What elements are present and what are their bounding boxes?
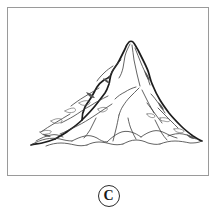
valley-line-right-lower bbox=[155, 120, 167, 140]
foothill-line-center-3 bbox=[107, 131, 141, 142]
caption-badge-circle: C bbox=[98, 185, 120, 207]
rock-facet-right-2 bbox=[174, 129, 184, 133]
valley-line-center bbox=[113, 115, 119, 141]
crevice-center-left bbox=[115, 87, 136, 99]
caption-letter: C bbox=[103, 188, 113, 202]
valley-line-center-right bbox=[128, 118, 136, 139]
foothill-line-center-1 bbox=[72, 136, 107, 142]
ridge-contour-upper-left bbox=[108, 60, 121, 79]
foothill-line-center-2 bbox=[87, 142, 123, 145]
caption-row: C bbox=[0, 180, 217, 211]
ridge-contour-summit-right bbox=[135, 48, 150, 85]
foothill-line-right-3 bbox=[160, 141, 202, 144]
foothill-line-right-1 bbox=[123, 140, 160, 144]
page-root: C bbox=[0, 0, 217, 211]
mountain-left-shoulder-ridge bbox=[82, 77, 109, 120]
crevice-center-main bbox=[119, 88, 139, 115]
foothill-line-right-2 bbox=[141, 131, 177, 138]
rock-facet-right-3 bbox=[147, 114, 155, 118]
left-flank-band-4 bbox=[41, 114, 70, 132]
foothill-line-left-3 bbox=[46, 143, 87, 146]
rock-facet-left-1 bbox=[65, 108, 76, 113]
mountain-line-drawing bbox=[8, 8, 208, 175]
illustration-frame bbox=[7, 7, 209, 176]
rock-facet-left-5 bbox=[40, 130, 51, 134]
